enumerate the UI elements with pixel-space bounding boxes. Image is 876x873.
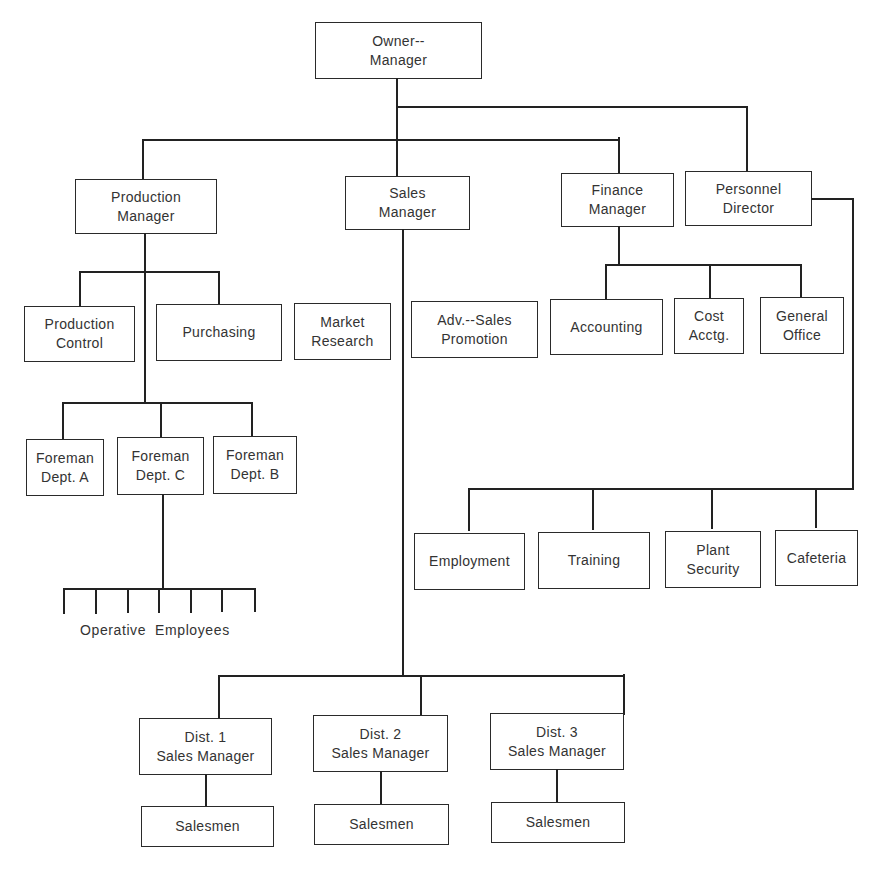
employee-tick xyxy=(95,589,97,614)
node-foreman-dept-c: Foreman Dept. C xyxy=(117,437,204,495)
node-label: Dist. 2 Sales Manager xyxy=(331,725,429,763)
employee-tick xyxy=(158,589,160,613)
node-label: Market Research xyxy=(311,313,373,351)
node-label: Salesmen xyxy=(526,813,591,832)
connector xyxy=(402,229,404,677)
connector xyxy=(468,488,854,490)
connector xyxy=(468,489,470,531)
node-label: General Office xyxy=(776,307,828,345)
employee-tick xyxy=(221,588,223,612)
node-label: Cafeteria xyxy=(787,549,847,568)
node-label: Production Control xyxy=(45,315,115,353)
connector xyxy=(62,403,64,440)
connector xyxy=(618,226,620,266)
connector xyxy=(205,774,207,808)
connector xyxy=(380,771,382,805)
node-label: Foreman Dept. B xyxy=(226,446,284,484)
node-sales-manager: Sales Manager xyxy=(345,176,470,230)
node-foreman-dept-a: Foreman Dept. A xyxy=(26,439,104,496)
connector xyxy=(142,140,144,180)
connector xyxy=(218,271,220,305)
connector xyxy=(800,264,802,298)
node-training: Training xyxy=(538,532,650,589)
connector xyxy=(218,676,220,719)
connector xyxy=(251,402,253,438)
node-salesmen-3: Salesmen xyxy=(491,802,625,843)
node-label: Finance Manager xyxy=(589,181,646,219)
employee-tick xyxy=(190,589,192,613)
node-label: Sales Manager xyxy=(379,184,436,222)
connector xyxy=(746,106,748,172)
node-dist-2-sales-manager: Dist. 2 Sales Manager xyxy=(313,715,448,772)
node-market-research: Market Research xyxy=(294,303,391,360)
connector xyxy=(618,137,620,174)
node-label: Training xyxy=(568,551,620,570)
node-dist-1-sales-manager: Dist. 1 Sales Manager xyxy=(139,718,272,775)
node-label: Salesmen xyxy=(349,815,414,834)
node-dist-3-sales-manager: Dist. 3 Sales Manager xyxy=(490,713,624,770)
employee-tick xyxy=(63,589,65,614)
connector xyxy=(815,488,817,528)
node-personnel-director: Personnel Director xyxy=(685,171,812,226)
node-salesmen-2: Salesmen xyxy=(314,804,449,845)
employee-tick xyxy=(127,589,129,613)
operative-employees-label: Operative Employees xyxy=(80,622,230,638)
node-label: Dist. 3 Sales Manager xyxy=(508,723,606,761)
node-production-manager: Production Manager xyxy=(75,179,217,234)
node-plant-security: Plant Security xyxy=(665,531,761,588)
node-employment: Employment xyxy=(414,533,525,590)
connector xyxy=(396,78,398,176)
node-label: Adv.--Sales Promotion xyxy=(437,311,512,349)
connector xyxy=(144,233,146,404)
node-label: Accounting xyxy=(570,318,642,337)
connector xyxy=(79,271,220,273)
node-finance-manager: Finance Manager xyxy=(561,173,674,227)
connector xyxy=(160,403,162,439)
connector xyxy=(709,264,711,298)
node-label: Production Manager xyxy=(111,188,181,226)
connector xyxy=(79,271,81,307)
connector xyxy=(420,675,422,716)
node-label: Foreman Dept. C xyxy=(131,447,189,485)
node-label: Purchasing xyxy=(182,323,255,342)
connector xyxy=(852,198,854,490)
node-general-office: General Office xyxy=(760,297,844,354)
connector xyxy=(605,265,607,300)
node-adv-sales-promotion: Adv.--Sales Promotion xyxy=(411,301,538,358)
connector xyxy=(62,402,253,404)
connector xyxy=(556,769,558,802)
node-production-control: Production Control xyxy=(24,306,135,362)
connector xyxy=(398,106,748,108)
node-label: Plant Security xyxy=(687,541,740,579)
node-label: Personnel Director xyxy=(716,180,782,218)
node-label: Salesmen xyxy=(175,817,240,836)
node-cafeteria: Cafeteria xyxy=(775,530,858,586)
connector xyxy=(623,674,625,715)
node-label: Dist. 1 Sales Manager xyxy=(156,728,254,766)
node-label: Owner-- Manager xyxy=(370,32,427,70)
node-salesmen-1: Salesmen xyxy=(141,806,274,847)
node-cost-acctg: Cost Acctg. xyxy=(674,298,744,354)
connector xyxy=(162,494,164,590)
node-accounting: Accounting xyxy=(550,299,663,355)
node-label: Foreman Dept. A xyxy=(36,449,94,487)
node-label: Cost Acctg. xyxy=(689,307,730,345)
connector xyxy=(142,139,620,141)
connector xyxy=(605,264,802,266)
employee-tick xyxy=(254,588,256,612)
connector xyxy=(811,198,854,200)
node-purchasing: Purchasing xyxy=(156,304,282,361)
connector xyxy=(592,489,594,530)
node-owner-manager: Owner-- Manager xyxy=(315,22,482,79)
connector xyxy=(711,488,713,529)
node-label: Employment xyxy=(429,552,510,571)
node-foreman-dept-b: Foreman Dept. B xyxy=(213,436,297,494)
